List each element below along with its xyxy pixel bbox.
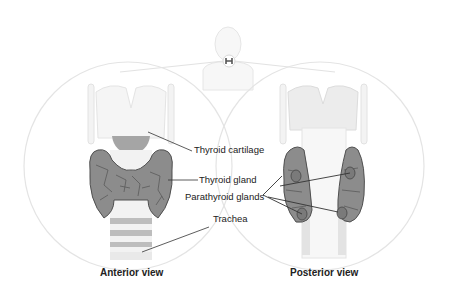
posterior-anatomy [280,84,367,258]
caption-posterior-view: Posterior view [290,267,358,278]
label-parathyroid-glands: Parathyroid glands [185,191,264,202]
anterior-anatomy [88,84,174,260]
thyroid-icon [223,55,235,67]
label-thyroid-gland: Thyroid gland [199,174,257,185]
label-thyroid-cartilage: Thyroid cartilage [194,144,264,155]
label-trachea: Trachea [213,213,248,224]
caption-anterior-view: Anterior view [100,267,163,278]
